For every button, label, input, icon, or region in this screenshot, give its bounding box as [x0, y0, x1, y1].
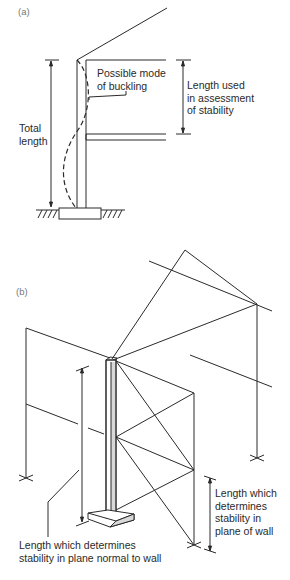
roof-rafter-b	[112, 250, 185, 359]
roof-purlin	[149, 261, 272, 311]
ground-hatching	[36, 210, 125, 218]
panel-a-label: (a)	[18, 6, 30, 17]
roof-rafter	[77, 8, 167, 60]
total-length-annotation: Total length	[19, 122, 48, 147]
length-used-annotation: Length used in assessment of stability	[187, 79, 254, 117]
buckling-leader	[89, 91, 126, 100]
base-plate	[59, 208, 101, 219]
normal-plane-leader	[48, 470, 79, 537]
buckling-annotation: Possible mode of buckling	[97, 67, 166, 92]
normal-plane-annotation: Length which determines stability in pla…	[19, 539, 161, 564]
wall-plane-annotation: Length which determines stability in pla…	[215, 487, 277, 537]
buckling-curve	[63, 60, 88, 208]
brace-5	[116, 470, 194, 510]
panel-a-drawing	[36, 8, 191, 219]
brace-2	[116, 393, 194, 437]
left-frame-top	[26, 328, 110, 358]
panel-b-label: (b)	[16, 286, 28, 297]
